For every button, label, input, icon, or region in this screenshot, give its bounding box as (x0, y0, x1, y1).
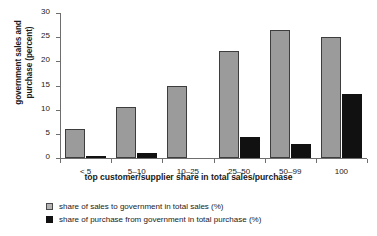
legend-label-purchase: share of purchase from government in tot… (59, 215, 261, 224)
legend-swatch-sales-icon (46, 203, 53, 210)
y-axis-tick-label: 20 (34, 55, 50, 64)
legend-swatch-purchase-icon (46, 216, 53, 223)
x-axis-tick (111, 159, 112, 163)
bar-purchase-1 (137, 153, 157, 158)
x-axis-tick (265, 159, 266, 163)
legend: share of sales to government in total sa… (46, 200, 261, 226)
y-axis-title: government sales and purchase (percent) (14, 0, 35, 143)
y-axis-tick: 5 (56, 134, 60, 135)
y-axis-tick: 30 (56, 13, 60, 14)
y-axis-tick-label: 5 (34, 128, 50, 137)
y-axis-line (60, 13, 61, 158)
y-axis-tick: 10 (56, 110, 60, 111)
bar-purchase-3 (240, 137, 260, 158)
bar-sales-1 (116, 107, 136, 158)
x-axis-tick (60, 159, 61, 163)
y-axis-tick-label: 0 (34, 152, 50, 161)
y-axis-tick: 25 (56, 37, 60, 38)
bar-sales-5 (321, 37, 341, 158)
y-axis-tick-label: 10 (34, 104, 50, 113)
legend-item-purchase: share of purchase from government in tot… (46, 213, 261, 226)
bar-purchase-4 (291, 144, 311, 158)
y-axis-tick: 20 (56, 61, 60, 62)
x-axis-tick (214, 159, 215, 163)
x-axis-tick (162, 159, 163, 163)
y-axis-tick-label: 25 (34, 31, 50, 40)
y-axis-title-line-1: government sales and (14, 0, 25, 143)
bar-purchase-0 (86, 156, 106, 158)
legend-label-sales: share of sales to government in total sa… (59, 202, 224, 211)
x-axis-tick (367, 159, 368, 163)
y-axis-tick-label: 15 (34, 80, 50, 89)
x-axis-tick (316, 159, 317, 163)
legend-item-sales: share of sales to government in total sa… (46, 200, 261, 213)
y-axis-title-line-2: purchase (percent) (24, 0, 35, 143)
bar-sales-4 (270, 30, 290, 158)
bar-sales-0 (65, 129, 85, 158)
bar-purchase-5 (342, 94, 362, 158)
y-axis-tick-label: 30 (34, 7, 50, 16)
bar-sales-3 (219, 51, 239, 158)
bar-chart-figure: government sales and purchase (percent) … (0, 0, 377, 236)
y-axis-tick: 15 (56, 86, 60, 87)
bar-sales-2 (167, 86, 187, 159)
x-axis-title: top customer/supplier share in total sal… (0, 172, 377, 182)
plot-area: 051015202530 < 55–1010–2525–5050–99100 (60, 13, 367, 158)
